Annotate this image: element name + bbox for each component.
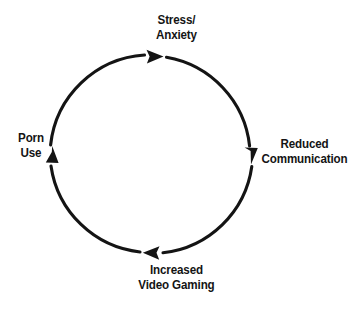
node-label-stress-anxiety: Stress/ Anxiety [12,13,338,43]
node-label-line: Video Gaming [14,278,339,293]
node-label-porn-use: Porn Use [4,131,58,161]
node-label-line: Increased [14,263,339,278]
node-label-reduced-communication: Reduced Communication [261,137,347,167]
cycle-diagram: Stress/ Anxiety Reduced Communication In… [0,0,351,309]
arc-porn-to-stress [51,55,145,145]
arrow-down-icon [245,148,258,165]
node-label-line: Porn [4,131,58,146]
node-label-increased-video-gaming: Increased Video Gaming [12,263,338,293]
node-label-line: Communication [261,152,347,167]
arc-stress-to-reduced [167,57,250,146]
arc-gaming-to-porn [51,166,140,252]
node-label-line: Use [4,146,58,161]
node-label-line: Anxiety [14,28,339,43]
node-label-line: Stress/ [14,13,339,28]
arrow-right-icon [147,50,164,64]
arrow-left-icon [143,246,160,260]
node-label-line: Reduced [261,137,347,152]
arc-reduced-to-gaming [163,167,252,253]
